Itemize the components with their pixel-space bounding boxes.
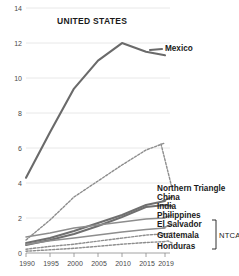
- y-tick-2: 2: [18, 215, 22, 222]
- series-label-india: India: [157, 203, 176, 211]
- leader-northern-triangle: [161, 144, 172, 188]
- series-lower-cluster: [26, 143, 165, 251]
- ntca-group-label: NTCA: [219, 231, 239, 240]
- series-label-philippines: Philippines: [157, 212, 201, 220]
- x-tick-2010: 2010: [115, 260, 131, 267]
- x-tick-2000: 2000: [67, 260, 83, 267]
- series-label-mexico: Mexico: [165, 45, 193, 53]
- x-tick-2005: 2005: [91, 260, 107, 267]
- series-mexico-group: [26, 43, 165, 178]
- ntca-bracket: [212, 220, 216, 249]
- y-tick-6: 6: [18, 145, 22, 152]
- y-tick-14: 14: [14, 5, 22, 12]
- chart-title: UNITED STATES: [57, 16, 127, 26]
- x-tick-2015: 2015: [139, 260, 155, 267]
- chart-container: 14 12 10 8 6 4 2 0: [0, 0, 239, 276]
- y-axis-tick-labels: 14 12 10 8 6 4 2 0: [14, 5, 22, 257]
- y-tick-12: 12: [14, 40, 22, 47]
- series-label-el-salvador: El Salvador: [157, 221, 202, 229]
- series-label-honduras: Honduras: [157, 243, 195, 251]
- mexico-label-leader: [150, 49, 162, 50]
- x-tick-2019: 2019: [158, 260, 174, 267]
- y-tick-10: 10: [14, 75, 22, 82]
- y-tick-8: 8: [18, 110, 22, 117]
- series-label-guatemala: Guatemala: [157, 232, 199, 240]
- axis-lines: [26, 253, 170, 257]
- x-tick-1995: 1995: [43, 260, 59, 267]
- ntca-bracket-path: [212, 220, 216, 249]
- gridlines: [26, 8, 170, 218]
- y-tick-0: 0: [18, 250, 22, 257]
- line-chart-plot: 14 12 10 8 6 4 2 0: [0, 0, 239, 276]
- x-tick-1990: 1990: [19, 260, 35, 267]
- series-label-china: China: [157, 194, 180, 202]
- series-label-northern-triangle: Northern Triangle: [157, 185, 225, 193]
- x-axis-tick-labels: 1990 1995 2000 2005 2010 2015 2019: [19, 260, 174, 267]
- series-mexico: [26, 43, 165, 178]
- y-tick-4: 4: [18, 180, 22, 187]
